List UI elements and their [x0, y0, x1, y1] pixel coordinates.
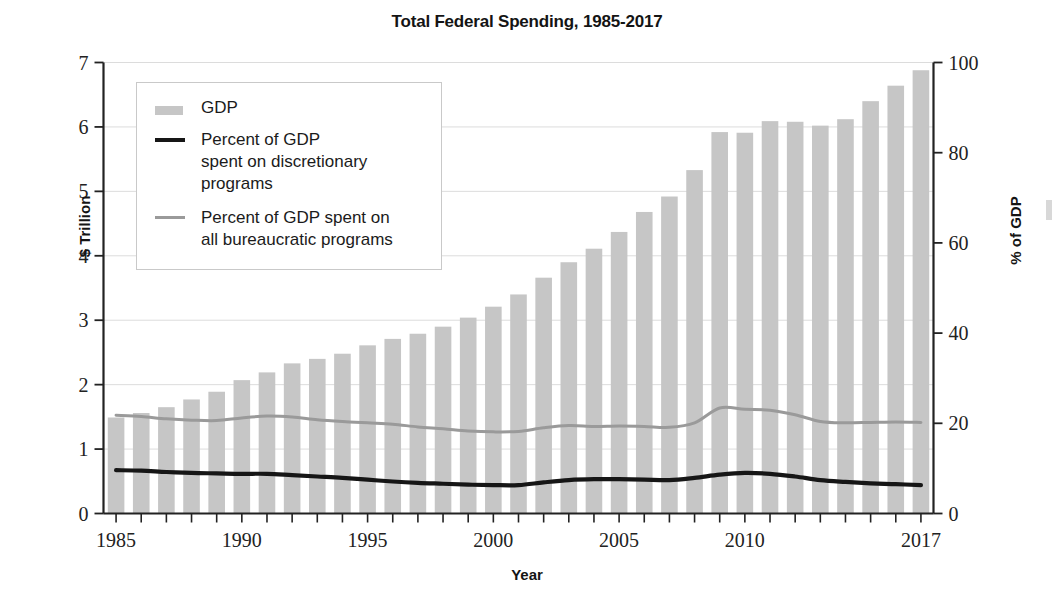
bar [410, 334, 427, 514]
x-tick-label: 2000 [473, 529, 513, 551]
bar [737, 133, 754, 514]
chart-container: Total Federal Spending, 1985-2017 012345… [0, 0, 1054, 612]
bar [586, 249, 603, 514]
legend-label-bureaucratic: Percent of GDP spent on all bureaucratic… [201, 207, 393, 251]
bar [561, 262, 578, 513]
bar [485, 307, 502, 514]
bar [913, 70, 930, 513]
y2-tick-label: 40 [949, 322, 969, 344]
y-tick-label: 0 [79, 503, 89, 525]
chart-legend: GDP Percent of GDP spent on discretionar… [136, 82, 442, 270]
bar [711, 132, 728, 513]
bar [661, 197, 678, 514]
y2-tick-label: 60 [949, 232, 969, 254]
bar [837, 119, 854, 513]
x-axis-title: Year [0, 566, 1054, 583]
bar [108, 418, 125, 514]
legend-item-gdp: GDP [155, 97, 238, 119]
dark-line-swatch-icon [155, 129, 201, 142]
bar [208, 392, 225, 514]
page-edge-artifact [1046, 200, 1052, 220]
x-tick-label: 1990 [222, 529, 262, 551]
bar [812, 126, 829, 514]
y-tick-label: 2 [79, 374, 89, 396]
y-axis-title-right: % of GDP [1007, 166, 1024, 296]
y-tick-label: 6 [79, 116, 89, 138]
legend-label-discretionary: Percent of GDP spent on discretionary pr… [201, 129, 367, 195]
y-axis-title-left: $ Trillion [76, 157, 93, 297]
bar [611, 232, 628, 514]
bar [787, 122, 804, 514]
y2-tick-label: 20 [949, 412, 969, 434]
legend-label-gdp: GDP [201, 97, 238, 119]
bar [259, 372, 276, 513]
bar [636, 212, 653, 514]
bar [359, 345, 376, 513]
bar [887, 86, 904, 514]
bar [309, 359, 326, 514]
bar [535, 278, 552, 514]
legend-item-bureaucratic: Percent of GDP spent on all bureaucratic… [155, 207, 393, 251]
bar [862, 101, 879, 513]
y-tick-label: 7 [79, 52, 89, 74]
x-tick-label: 1985 [96, 529, 136, 551]
bar [234, 380, 251, 513]
y2-tick-label: 100 [949, 52, 979, 74]
bar-swatch-icon [155, 97, 201, 115]
gray-line-swatch-icon [155, 207, 201, 219]
x-tick-label: 2005 [599, 529, 639, 551]
bar [183, 399, 200, 513]
bar [762, 121, 779, 513]
x-tick-label: 2010 [725, 529, 765, 551]
bar [510, 294, 527, 513]
bar [334, 354, 351, 514]
x-tick-label: 2017 [901, 529, 941, 551]
x-tick-label: 1995 [348, 529, 388, 551]
bar [133, 413, 150, 514]
bar [158, 407, 175, 513]
y2-tick-label: 80 [949, 142, 969, 164]
legend-item-discretionary: Percent of GDP spent on discretionary pr… [155, 129, 367, 195]
bar [686, 170, 703, 513]
y-tick-label: 1 [79, 438, 89, 460]
bar [284, 363, 301, 513]
y-tick-label: 3 [79, 309, 89, 331]
y2-tick-label: 0 [949, 503, 959, 525]
